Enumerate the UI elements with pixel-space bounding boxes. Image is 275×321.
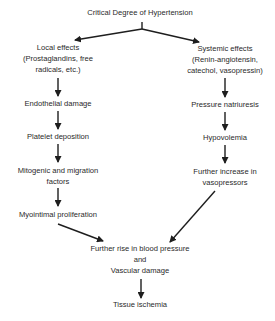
branch-right-arrow (142, 29, 199, 42)
flow-diagram: Critical Degree of Hypertension Local ef… (0, 0, 275, 321)
local-effects-detail-2: radicals, etc.) (35, 65, 80, 76)
pressure-natriuresis-label: Pressure natriuresis (191, 100, 259, 111)
blood-pressure-rise-label: Further rise in blood pressure (90, 244, 189, 255)
vascular-damage-label: Vascular damage (111, 266, 170, 277)
systemic-effects-detail-1: (Renin-angiotensin, (192, 55, 258, 66)
hypovolemia-label: Hypovolemia (203, 133, 247, 144)
mitogenic-factors-label-2: factors (47, 177, 70, 188)
myointimal-proliferation-label: Myointimal proliferation (19, 210, 97, 221)
systemic-effects-detail-2: catechol, vasopressin) (187, 66, 263, 77)
endothelial-damage-label: Endothelial damage (24, 99, 91, 110)
converge-left-arrow (58, 224, 103, 241)
local-effects-detail-1: (Prostaglandins, free (23, 54, 93, 65)
local-effects-label: Local effects (37, 43, 80, 54)
convergence-and-label: and (134, 255, 147, 266)
systemic-effects-label: Systemic effects (197, 44, 252, 55)
diagram-title: Critical Degree of Hypertension (87, 8, 193, 19)
vasopressors-label: Further increase in (193, 167, 256, 178)
branch-left-arrow (75, 29, 142, 40)
converge-right-arrow (170, 191, 215, 242)
mitogenic-factors-label: Mitogenic and migration (18, 166, 99, 177)
tissue-ischemia-label: Tissue ischemia (113, 300, 167, 311)
platelet-deposition-label: Platelet deposition (27, 132, 89, 143)
vasopressors-label-2: vasopressors (202, 178, 247, 189)
